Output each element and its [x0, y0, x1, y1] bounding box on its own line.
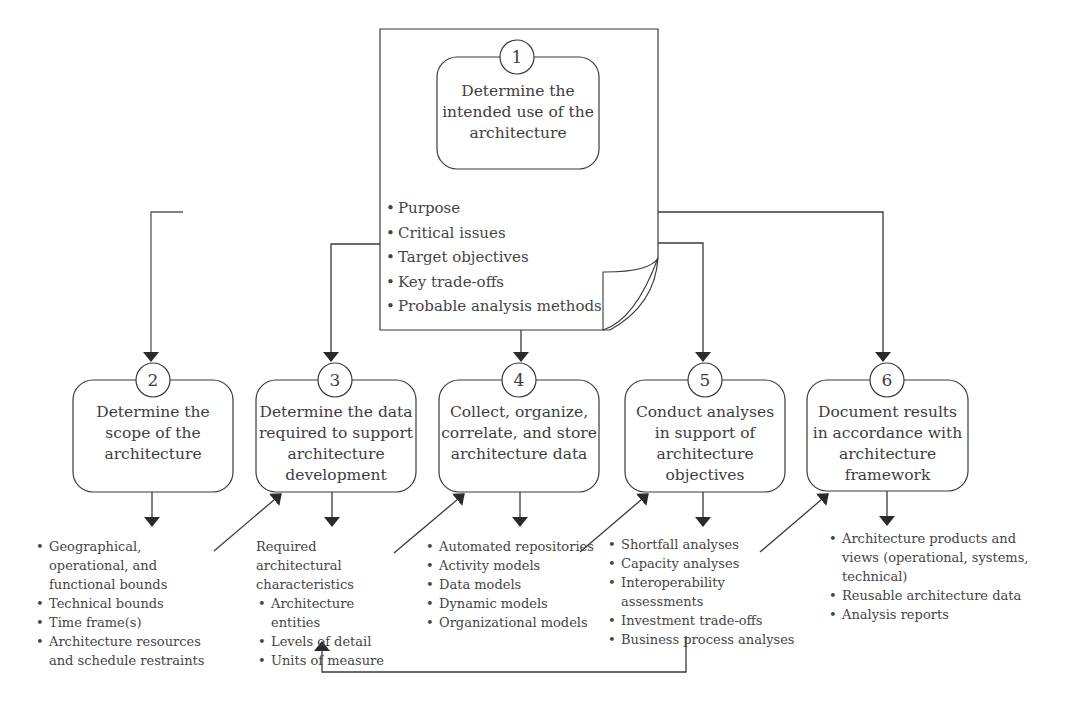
- list-item: Architecture resources and schedule rest…: [34, 632, 214, 670]
- list-item: Architecture products and views (operati…: [827, 529, 1042, 586]
- step-3-title-line: required to support: [256, 423, 416, 444]
- step-1-items: Purpose Critical issues Target objective…: [386, 196, 602, 319]
- step-1-number: 1: [500, 40, 534, 74]
- step-2-title: Determine the scope of the architecture: [73, 402, 233, 465]
- arrow-1-to-5: [658, 243, 703, 361]
- step-1-title-line: Determine the: [437, 81, 599, 102]
- step-3-number: 3: [318, 363, 352, 397]
- step-4-title-line: Collect, organize,: [439, 402, 599, 423]
- list-item: Key trade-offs: [386, 270, 602, 295]
- step-5-title-line: in support of: [625, 423, 785, 444]
- step-3-items: Required architectural characteristics A…: [256, 537, 406, 670]
- list-item: Architecture entities: [256, 594, 406, 632]
- step-5-title-line: objectives: [625, 465, 785, 486]
- step-5-title-line: Conduct analyses: [625, 402, 785, 423]
- list-item: Activity models: [424, 556, 594, 575]
- step-4-items: Automated repositories Activity models D…: [424, 537, 594, 632]
- list-item: Target objectives: [386, 245, 602, 270]
- step-3-intro: Required architectural characteristics: [256, 537, 406, 594]
- list-item: Interoperability assessments: [606, 573, 806, 611]
- list-item: Shortfall analyses: [606, 535, 806, 554]
- list-item: Technical bounds: [34, 594, 214, 613]
- step-2-number: 2: [136, 363, 170, 397]
- list-item: Business process analyses: [606, 630, 806, 649]
- list-item: Critical issues: [386, 221, 602, 246]
- step-6-items: Architecture products and views (operati…: [827, 529, 1042, 624]
- list-item: Geographical, operational, and functiona…: [34, 537, 214, 594]
- step-3-title: Determine the data required to support a…: [256, 402, 416, 486]
- step-1-title-line: intended use of the: [437, 102, 599, 123]
- step-5-number: 5: [688, 363, 722, 397]
- step-6-title-line: Document results: [807, 402, 968, 423]
- step-4-title: Collect, organize, correlate, and store …: [439, 402, 599, 465]
- list-item: Reusable architecture data: [827, 586, 1042, 605]
- list-item: Data models: [424, 575, 594, 594]
- step-6-title-line: in accordance with: [807, 423, 968, 444]
- step-5-items: Shortfall analyses Capacity analyses Int…: [606, 535, 806, 649]
- step-1-title-line: architecture: [437, 123, 599, 144]
- arrow-1-to-3: [331, 244, 380, 361]
- arrow-1-to-2: [151, 212, 183, 361]
- list-item: Time frame(s): [34, 613, 214, 632]
- list-item: Organizational models: [424, 613, 594, 632]
- step-2-title-line: Determine the: [73, 402, 233, 423]
- step-5-title-line: architecture: [625, 444, 785, 465]
- step-6-title-line: framework: [807, 465, 968, 486]
- list-item: Automated repositories: [424, 537, 594, 556]
- list-item: Probable analysis methods: [386, 294, 602, 319]
- step-2-title-line: architecture: [73, 444, 233, 465]
- list-item: Units of measure: [256, 651, 406, 670]
- step-1-title: Determine the intended use of the archit…: [437, 81, 599, 144]
- list-item: Capacity analyses: [606, 554, 806, 573]
- step-4-title-line: architecture data: [439, 444, 599, 465]
- step-6-title-line: architecture: [807, 444, 968, 465]
- arrow-1-to-6: [658, 212, 883, 361]
- list-item: Levels of detail: [256, 632, 406, 651]
- step-2-title-line: scope of the: [73, 423, 233, 444]
- step-3-title-line: Determine the data: [256, 402, 416, 423]
- list-item: Analysis reports: [827, 605, 1042, 624]
- step-2-items: Geographical, operational, and functiona…: [34, 537, 214, 670]
- step-3-title-line: development: [256, 465, 416, 486]
- list-item: Dynamic models: [424, 594, 594, 613]
- list-item: Purpose: [386, 196, 602, 221]
- step-6-number: 6: [870, 363, 904, 397]
- step-4-number: 4: [502, 363, 536, 397]
- step-6-title: Document results in accordance with arch…: [807, 402, 968, 486]
- step-3-title-line: architecture: [256, 444, 416, 465]
- step-4-title-line: correlate, and store: [439, 423, 599, 444]
- step-5-title: Conduct analyses in support of architect…: [625, 402, 785, 486]
- list-item: Investment trade-offs: [606, 611, 806, 630]
